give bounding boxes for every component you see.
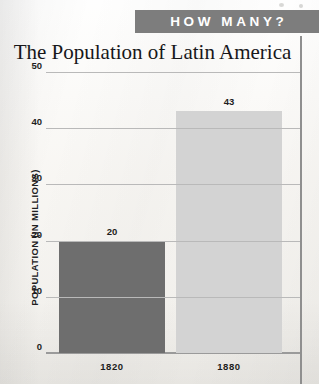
gridline-10	[46, 297, 300, 298]
bar-value-1880: 43	[176, 96, 282, 107]
gridline-30	[46, 184, 300, 185]
x-axis-label-1820: 1820	[59, 361, 165, 372]
page-title: The Population of Latin America	[0, 40, 305, 65]
how-many-banner: HOW MANY?	[135, 10, 319, 33]
bar-value-1820: 20	[59, 226, 165, 237]
gridline-20	[46, 241, 300, 242]
chart-page: HOW MANY? The Population of Latin Americ…	[0, 0, 319, 384]
y-tick-label-30: 30	[18, 172, 42, 183]
scan-speck-icon	[299, 4, 303, 8]
plot-frame-right	[300, 36, 302, 384]
y-tick-label-20: 20	[18, 229, 42, 240]
plot-area: 20 43 01020304050	[46, 72, 300, 353]
x-axis-label-1880: 1880	[176, 361, 282, 372]
bar-1880	[176, 111, 282, 353]
y-tick-label-50: 50	[18, 60, 42, 71]
y-tick-label-10: 10	[18, 285, 42, 296]
y-tick-label-0: 0	[18, 341, 42, 352]
y-tick-label-40: 40	[18, 116, 42, 127]
banner-label: HOW MANY?	[167, 14, 288, 29]
gridline-50	[46, 72, 300, 73]
gridline-40	[46, 128, 300, 129]
scan-speck-icon	[279, 3, 284, 7]
